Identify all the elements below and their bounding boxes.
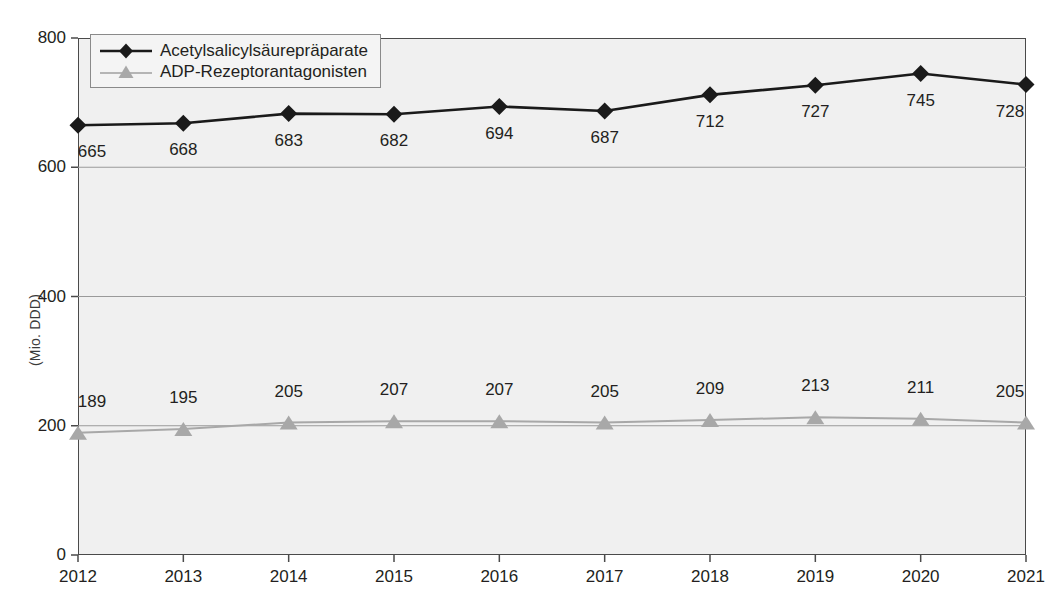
- x-tick-label: 2013: [164, 567, 202, 587]
- x-tick-label: 2016: [480, 567, 518, 587]
- x-tick-label: 2014: [270, 567, 308, 587]
- x-tick-label: 2019: [796, 567, 834, 587]
- x-tick-label: 2021: [1007, 567, 1045, 587]
- x-tick-label: 2012: [59, 567, 97, 587]
- diamond-marker-icon: [99, 41, 153, 61]
- legend-item-series1: Acetylsalicylsäurepräparate: [99, 40, 368, 61]
- triangle-marker-icon: [99, 62, 153, 82]
- legend: Acetylsalicylsäurepräparate ADP-Rezeptor…: [90, 34, 381, 88]
- x-tick-label: 2015: [375, 567, 413, 587]
- x-tick-label: 2017: [586, 567, 624, 587]
- line-chart: (Mio. DDD) 0200400600800 665668683682694…: [0, 0, 1054, 615]
- x-tick-label: 2020: [902, 567, 940, 587]
- x-axis-tick-labels: 2012201320142015201620172018201920202021: [0, 0, 1054, 615]
- legend-item-series2: ADP-Rezeptorantagonisten: [99, 61, 368, 82]
- legend-label-series1: Acetylsalicylsäurepräparate: [160, 42, 368, 59]
- legend-label-series2: ADP-Rezeptorantagonisten: [160, 63, 367, 80]
- x-tick-label: 2018: [691, 567, 729, 587]
